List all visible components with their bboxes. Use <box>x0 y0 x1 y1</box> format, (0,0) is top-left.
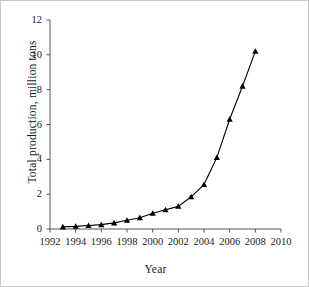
tick-label-layer: 024681012 199219941996199820002002200420… <box>1 1 309 287</box>
y-tick-label: 0 <box>1 224 42 235</box>
chart-figure: 024681012 199219941996199820002002200420… <box>0 0 309 287</box>
x-tick-label: 2010 <box>265 237 297 248</box>
x-axis-title: Year <box>1 263 309 275</box>
y-axis-title: Total production, million tons <box>26 27 38 197</box>
y-tick-label: 12 <box>1 15 42 26</box>
